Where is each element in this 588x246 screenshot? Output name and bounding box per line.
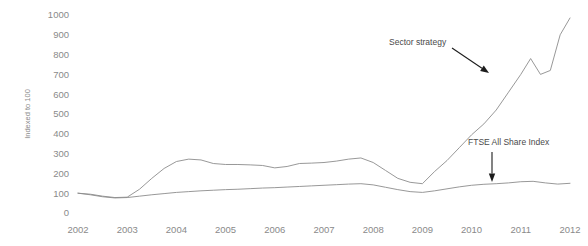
line-chart: 01002003004005006007008009001000Indexed … [0, 0, 588, 246]
x-axis: 2002200320042005200620072008200920102011… [67, 224, 580, 235]
y-axis-title: Indexed to 100 [23, 89, 32, 139]
annotation-sector-strategy: Sector strategy [389, 37, 489, 73]
y-axis-tick-label: 500 [53, 108, 69, 119]
x-axis-tick-label: 2004 [166, 224, 187, 235]
y-axis-tick-label: 100 [53, 188, 69, 199]
y-axis-tick-label: 1000 [48, 9, 69, 20]
y-axis-tick-label: 800 [53, 49, 69, 60]
series-line: Sector strategy [78, 18, 570, 198]
annotation-label: Sector strategy [389, 37, 447, 47]
x-axis-tick-label: 2005 [215, 224, 236, 235]
x-axis-tick-label: 2003 [117, 224, 138, 235]
y-axis: 01002003004005006007008009001000 [48, 9, 69, 218]
annotation-arrow-head [480, 66, 489, 73]
x-axis-tick-label: 2012 [559, 224, 580, 235]
x-axis-tick-label: 2011 [511, 224, 531, 235]
annotations-group: Sector strategyFTSE All Share Index [389, 37, 550, 182]
series-group: Sector strategyFTSE All Share Index [78, 18, 570, 198]
y-axis-tick-label: 900 [53, 29, 69, 40]
x-axis-tick-label: 2008 [363, 224, 384, 235]
x-axis-tick-label: 2010 [461, 224, 482, 235]
y-axis-tick-label: 300 [53, 148, 69, 159]
x-axis-tick-label: 2009 [412, 224, 433, 235]
chart-container: 01002003004005006007008009001000Indexed … [0, 0, 588, 246]
annotation-arrow-shaft [452, 48, 482, 68]
x-axis-tick-label: 2007 [313, 224, 334, 235]
x-axis-tick-label: 2002 [67, 224, 88, 235]
annotation-ftse-all-share-index: FTSE All Share Index [468, 137, 550, 182]
x-axis-tick-label: 2006 [264, 224, 285, 235]
annotation-arrow-head [489, 174, 495, 183]
y-axis-tick-label: 700 [53, 69, 69, 80]
y-axis-tick-label: 200 [53, 168, 69, 179]
y-axis-tick-label: 400 [53, 128, 69, 139]
y-axis-tick-label: 0 [64, 207, 69, 218]
annotation-label: FTSE All Share Index [468, 137, 550, 147]
series-line: FTSE All Share Index [78, 181, 570, 198]
y-axis-tick-label: 600 [53, 89, 69, 100]
